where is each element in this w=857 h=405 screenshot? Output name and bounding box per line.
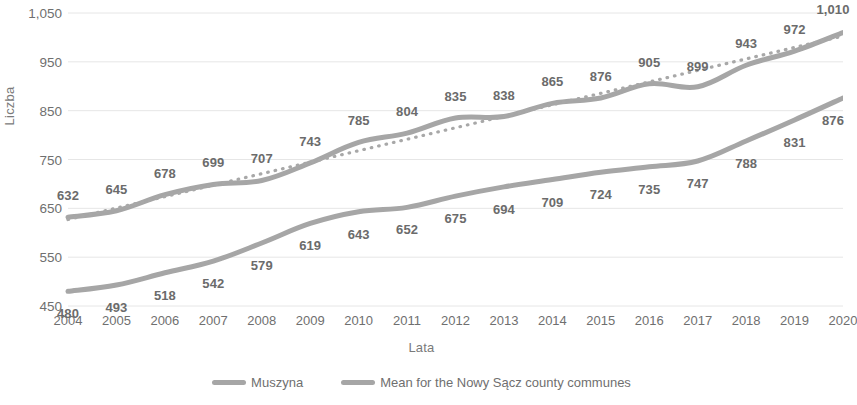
data-label: 785 xyxy=(348,113,370,128)
legend-swatch-icon xyxy=(212,380,246,385)
x-tick-label: 2006 xyxy=(150,313,179,328)
x-tick-label: 2011 xyxy=(393,313,421,328)
data-label: 943 xyxy=(735,36,757,51)
x-tick-label: 2019 xyxy=(780,313,809,328)
legend-item-county-mean[interactable]: Mean for the Nowy Sącz county communes xyxy=(341,375,631,390)
data-label: 652 xyxy=(396,222,418,237)
x-axis-ticks: 2004200520062007200820092010201120122013… xyxy=(0,313,843,335)
legend-label: Muszyna xyxy=(251,375,303,390)
x-tick-label: 2009 xyxy=(296,313,325,328)
x-tick-label: 2012 xyxy=(441,313,470,328)
legend-label: Mean for the Nowy Sącz county communes xyxy=(380,375,631,390)
x-tick-label: 2007 xyxy=(199,313,228,328)
data-label: 709 xyxy=(541,194,563,209)
data-label: 831 xyxy=(784,134,806,149)
x-tick-label: 2016 xyxy=(635,313,664,328)
x-tick-label: 2020 xyxy=(829,313,857,328)
x-tick-label: 2017 xyxy=(683,313,712,328)
data-label: 876 xyxy=(590,68,612,83)
series-line-muszyna xyxy=(68,33,843,218)
data-label: 735 xyxy=(638,181,660,196)
data-label: 675 xyxy=(445,211,467,226)
x-tick-label: 2014 xyxy=(538,313,567,328)
data-label: 619 xyxy=(299,238,321,253)
data-label: 643 xyxy=(348,226,370,241)
x-tick-label: 2004 xyxy=(54,313,83,328)
data-label: 743 xyxy=(299,133,321,148)
data-label: 899 xyxy=(687,58,709,73)
data-label: 707 xyxy=(251,151,273,166)
data-label: 804 xyxy=(396,104,418,119)
data-label: 518 xyxy=(154,287,176,302)
legend-swatch-icon xyxy=(341,380,375,385)
legend-item-muszyna[interactable]: Muszyna xyxy=(212,375,303,390)
data-label: 724 xyxy=(590,187,612,202)
data-label: 905 xyxy=(638,54,660,69)
data-label: 835 xyxy=(445,88,467,103)
data-label: 632 xyxy=(57,188,79,203)
data-label: 747 xyxy=(687,175,709,190)
series-line-county-mean xyxy=(68,98,843,291)
data-label: 788 xyxy=(735,155,757,170)
data-label: 972 xyxy=(784,22,806,37)
series-lines xyxy=(68,33,843,292)
data-label: 645 xyxy=(105,181,127,196)
data-label: 699 xyxy=(202,155,224,170)
data-label: 678 xyxy=(154,165,176,180)
plot-area xyxy=(0,0,843,330)
data-label: 694 xyxy=(493,201,515,216)
data-label: 1,010 xyxy=(816,1,849,16)
x-tick-label: 2018 xyxy=(732,313,761,328)
data-label: 579 xyxy=(251,258,273,273)
gridlines xyxy=(68,13,843,306)
data-label: 865 xyxy=(541,74,563,89)
x-tick-label: 2015 xyxy=(586,313,615,328)
x-tick-label: 2005 xyxy=(102,313,131,328)
x-tick-label: 2013 xyxy=(489,313,518,328)
data-label: 838 xyxy=(493,87,515,102)
x-tick-label: 2008 xyxy=(247,313,276,328)
data-label: 542 xyxy=(202,276,224,291)
chart-legend: MuszynaMean for the Nowy Sącz county com… xyxy=(0,375,843,390)
data-label: 876 xyxy=(822,112,844,127)
x-axis-title: Lata xyxy=(0,340,843,355)
x-tick-label: 2010 xyxy=(344,313,373,328)
